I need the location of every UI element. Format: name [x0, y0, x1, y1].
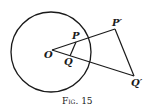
label-Q-prime: Q′	[131, 78, 142, 88]
label-P: P	[72, 31, 80, 41]
label-O: O	[44, 50, 53, 60]
label-P-prime: P′	[112, 18, 122, 28]
figure-15: O P Q P′ Q′ Fig. 15	[0, 0, 145, 111]
figure-caption: Fig. 15	[62, 97, 93, 106]
label-Q: Q	[64, 57, 73, 67]
line-Pprime-Qprime	[115, 29, 134, 76]
line-O-Pprime	[52, 29, 115, 50]
